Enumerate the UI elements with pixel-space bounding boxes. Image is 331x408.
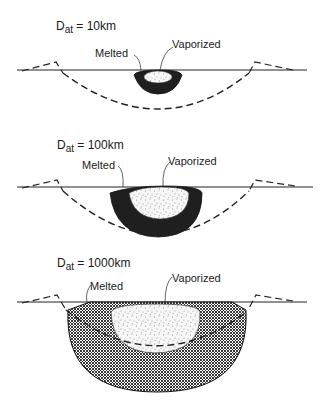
melted-label: Melted (95, 47, 128, 59)
panel-title-10km: Dat = 10km (56, 19, 116, 33)
vaporized-label: Vaporized (172, 272, 221, 284)
vaporized-zone (144, 71, 172, 83)
crater-diagram (0, 0, 331, 408)
crater-rim-left (22, 62, 63, 73)
panel-1000km (17, 277, 307, 392)
vaporized-leader (160, 47, 173, 70)
panel-100km (17, 162, 313, 237)
vaporized-label: Vaporized (172, 38, 221, 50)
melted-leader (134, 55, 141, 70)
panel-10km (17, 47, 307, 109)
crater-rim-left (22, 180, 63, 191)
crater-rim-right (249, 62, 293, 73)
melted-leader (118, 166, 123, 187)
crater-rim-right (249, 180, 295, 191)
panel-title-100km: Dat = 100km (57, 138, 124, 152)
panel-title-1000km: Dat = 1000km (57, 256, 130, 270)
vaporized-label: Vaporized (168, 155, 217, 167)
vaporized-leader (165, 277, 172, 303)
melted-label: Melted (90, 280, 123, 292)
melted-label: Melted (82, 159, 115, 171)
